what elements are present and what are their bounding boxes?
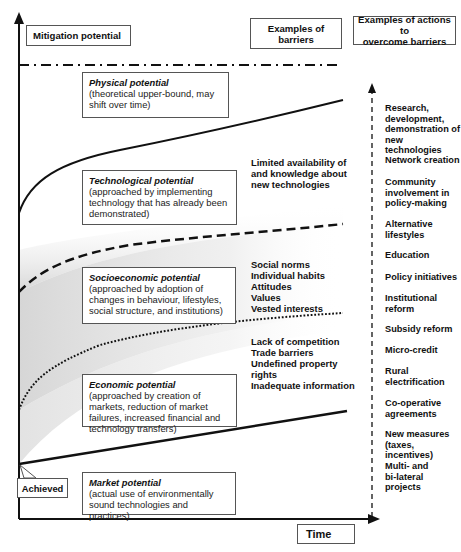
- action-multilateral-projects: Multi- and bi-lateral projects: [385, 461, 461, 493]
- action-cooperative-agreements: Co-operative agreements: [385, 398, 441, 419]
- technological-potential-title: Technological potential: [89, 175, 230, 186]
- action-education: Education: [385, 250, 429, 261]
- economic-potential-desc: (approached by creation of markets, redu…: [89, 390, 220, 434]
- action-community-involvement: Community involvement in policy-making: [385, 177, 449, 209]
- time-axis-label: Time: [297, 524, 355, 544]
- action-network-creation: Network creation: [385, 155, 460, 166]
- action-institutional-reform: Institutional reform: [385, 293, 437, 314]
- market-potential-desc: (actual use of environmentally sound tec…: [89, 488, 214, 521]
- box-technological-potential: Technological potential (approached by i…: [82, 170, 237, 225]
- action-subsidy-reform: Subsidy reform: [385, 324, 452, 335]
- socioeconomic-potential-title: Socioeconomic potential: [89, 272, 229, 283]
- achieved-label: Achieved: [17, 478, 68, 498]
- action-new-measures: New measures (taxes, incentives): [385, 429, 461, 461]
- physical-potential-title: Physical potential: [89, 77, 222, 88]
- technological-potential-desc: (approached by implementing technology t…: [89, 186, 227, 219]
- barriers-technological: Limited availability of and knowledge ab…: [251, 157, 347, 190]
- actions-arrow-head-icon: [368, 83, 376, 93]
- physical-potential-desc: (theoretical upper-bound, may shift over…: [89, 88, 214, 110]
- box-market-potential: Market potential (actual use of environm…: [82, 472, 236, 515]
- economic-potential-title: Economic potential: [89, 379, 230, 390]
- action-policy-initiatives: Policy initiatives: [385, 272, 457, 283]
- y-axis-arrow-icon: [14, 12, 24, 24]
- header-examples-of-barriers: Examples of barriers: [250, 18, 342, 49]
- socioeconomic-potential-desc: (approached by adoption of changes in be…: [89, 283, 223, 316]
- action-rural-electrification: Rural electrification: [385, 366, 445, 387]
- achieved-pointer: [20, 465, 36, 478]
- barriers-socioeconomic: Social norms Individual habits Attitudes…: [251, 259, 325, 314]
- x-axis-arrow-icon: [368, 514, 380, 524]
- box-physical-potential: Physical potential (theoretical upper-bo…: [82, 72, 229, 118]
- box-socioeconomic-potential: Socioeconomic potential (approached by a…: [82, 267, 236, 324]
- barriers-economic: Lack of competition Trade barriers Undef…: [251, 336, 355, 391]
- header-mitigation-potential: Mitigation potential: [26, 25, 131, 46]
- header-examples-of-actions: Examples of actions to overcome barriers: [353, 16, 456, 45]
- box-economic-potential: Economic potential (approached by creati…: [82, 374, 237, 427]
- action-research: Research, development, demonstration of …: [385, 103, 461, 156]
- action-alternative-lifestyles: Alternative lifestyles: [385, 219, 433, 240]
- market-potential-title: Market potential: [89, 477, 229, 488]
- action-micro-credit: Micro-credit: [385, 345, 438, 356]
